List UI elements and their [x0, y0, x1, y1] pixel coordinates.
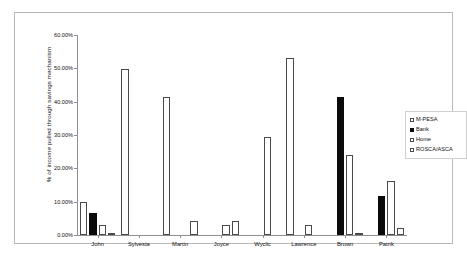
y-axis-tick-label: 40.00%	[33, 99, 73, 105]
bar-group	[80, 35, 115, 235]
bar	[232, 221, 239, 235]
x-axis-tick-mark	[139, 235, 140, 238]
x-axis-tick-mark	[98, 235, 99, 238]
x-axis-tick-mark	[263, 235, 264, 238]
bar	[163, 97, 170, 235]
legend-label: M-PESA	[416, 117, 437, 123]
x-axis-category-label: John	[91, 241, 104, 247]
x-axis-tick-mark	[221, 235, 222, 238]
y-axis-tick-label: 50.00%	[33, 65, 73, 71]
x-axis-category-label: Brown	[337, 241, 353, 247]
legend-item: ROSCA/ASCA	[410, 145, 463, 155]
bar	[355, 233, 362, 235]
bar	[190, 221, 197, 235]
x-axis-tick-mark	[304, 235, 305, 238]
legend-swatch-icon	[410, 118, 414, 122]
x-axis-category-label: Wyclic	[254, 241, 271, 247]
bar	[108, 233, 115, 235]
bar	[378, 196, 385, 235]
bar-group	[121, 35, 156, 235]
bar	[222, 225, 229, 235]
x-axis-line	[77, 235, 407, 236]
bar-group	[204, 35, 239, 235]
bar	[387, 181, 394, 235]
legend-swatch-icon	[410, 138, 414, 142]
bar	[305, 225, 312, 235]
legend-item: Bank	[410, 125, 463, 135]
x-axis-category-label: Sylvesta	[128, 241, 150, 247]
bar-group	[245, 35, 280, 235]
y-axis-title: % of income pulled through savings mecha…	[45, 20, 52, 210]
y-axis-tick-label: 0.00%	[33, 232, 73, 238]
bar-group	[328, 35, 363, 235]
y-axis-tick-label: 10.00%	[33, 199, 73, 205]
y-axis-tick-label: 30.00%	[33, 132, 73, 138]
bar	[80, 202, 87, 235]
chart-legend: M-PESABankHomeROSCA/ASCA	[405, 111, 467, 159]
legend-label: Bank	[416, 127, 429, 133]
bar	[346, 155, 353, 235]
bar-group	[163, 35, 198, 235]
x-axis-category-label: Patrik	[379, 241, 394, 247]
x-axis-category-label: Lawrence	[291, 241, 316, 247]
legend-label: Home	[416, 137, 431, 143]
legend-swatch-icon	[410, 128, 414, 132]
y-axis-tick-label: 60.00%	[33, 32, 73, 38]
chart-screenshot: % of income pulled through savings mecha…	[0, 0, 467, 257]
legend-item: M-PESA	[410, 115, 463, 125]
x-axis-tick-mark	[345, 235, 346, 238]
legend-swatch-icon	[410, 148, 414, 152]
bar	[397, 228, 404, 235]
bar-group	[369, 35, 404, 235]
bar	[99, 225, 106, 235]
legend-item: Home	[410, 135, 463, 145]
bar-group	[286, 35, 321, 235]
y-axis-tick-label: 20.00%	[33, 165, 73, 171]
x-axis-tick-mark	[180, 235, 181, 238]
x-axis-category-label: Martin	[172, 241, 188, 247]
bar	[286, 58, 293, 235]
x-axis-category-label: Joyce	[214, 241, 229, 247]
bar	[121, 69, 128, 235]
bar	[337, 97, 344, 235]
legend-label: ROSCA/ASCA	[416, 147, 453, 153]
x-axis-tick-mark	[386, 235, 387, 238]
bar	[89, 213, 96, 235]
chart-frame: % of income pulled through savings mecha…	[14, 12, 453, 244]
bar	[264, 137, 271, 235]
